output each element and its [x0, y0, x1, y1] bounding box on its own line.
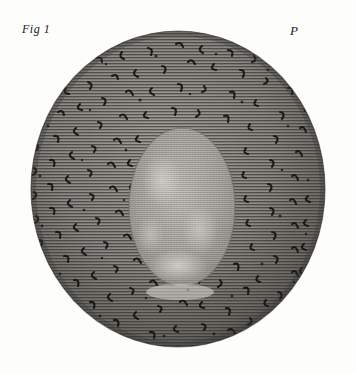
- lower-highlight-streak: [146, 284, 214, 300]
- microscope-field: [30, 30, 326, 348]
- field-illustration: [30, 30, 326, 348]
- specimen-highlight-left: [136, 217, 164, 253]
- engraving-plate: Fig 1 P: [0, 0, 356, 374]
- specimen-highlight-right: [182, 206, 218, 254]
- specimen-highlight-upper: [142, 154, 182, 206]
